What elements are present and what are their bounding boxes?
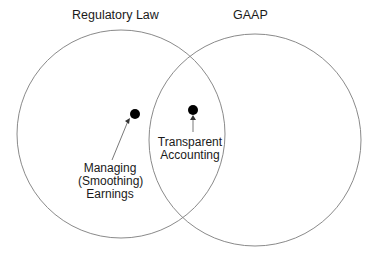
venn-diagram — [0, 0, 373, 260]
point-label-managing-earnings: Managing (Smoothing) Earnings — [78, 162, 142, 201]
set-label-regulatory-law: Regulatory Law — [72, 9, 159, 22]
set-label-gaap: GAAP — [233, 9, 268, 22]
transparent-accounting-dot — [188, 105, 198, 115]
managing-earnings-dot — [130, 109, 140, 119]
regulatory-law-circle — [17, 30, 225, 238]
point-label-transparent-accounting: Transparent Accounting — [156, 136, 224, 162]
label-line: Accounting — [156, 149, 224, 162]
transparent-arrowhead-icon — [190, 115, 196, 120]
managing-earnings-arrow — [112, 121, 128, 160]
label-line: Earnings — [78, 188, 142, 201]
